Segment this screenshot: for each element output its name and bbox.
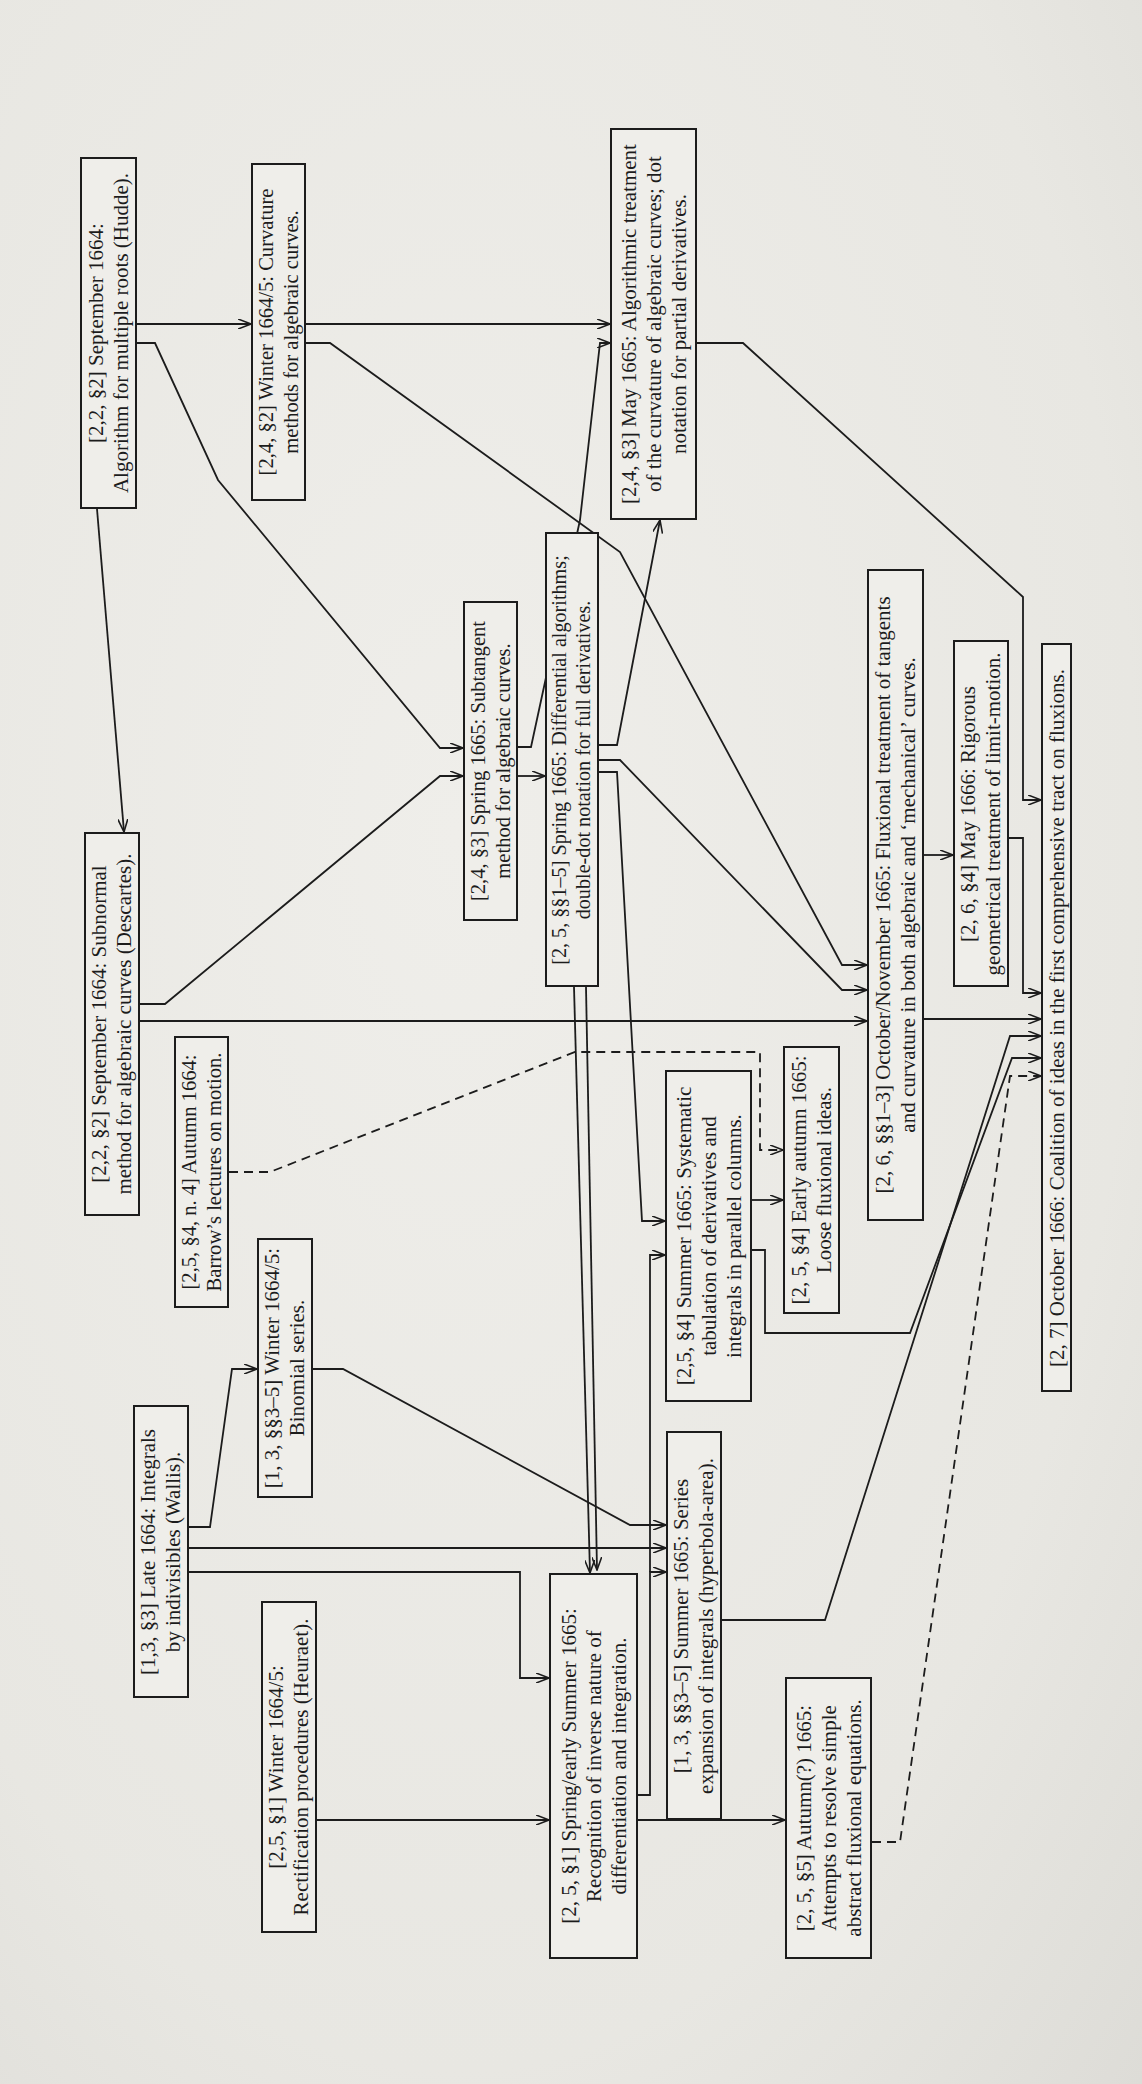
node-text: [2, 7] October 1666: Coalition of ideas …: [1044, 668, 1069, 1366]
node-text-line: tabulation of derivatives and: [696, 1087, 721, 1386]
node-text-line: [1,3, §3] Late 1664: Integrals: [136, 1428, 161, 1674]
node-text-line: differentiation and integration.: [606, 1608, 631, 1924]
edge-inverse-to-series: [638, 1572, 666, 1795]
node-text-line: geometrical treatment of limit-motion.: [981, 652, 1006, 975]
node-text-line: method for algebraic curves.: [491, 621, 516, 901]
node-text-line: [2,5, §4] Summer 1665: Systematic: [671, 1087, 696, 1386]
edge-differential-to-octnov: [599, 760, 867, 990]
node-text: [2,4, §2] Winter 1664/5: Curvaturemethod…: [254, 189, 303, 476]
node-binomial: [1, 3, §§3–5] Winter 1664/5:Binomial ser…: [257, 1238, 313, 1498]
node-may1666: [2, 6, §4] May 1666: Rigorousgeometrical…: [953, 640, 1009, 987]
node-text-line: method for algebraic curves (Descartes).: [112, 853, 137, 1194]
node-text: [2,4, §3] May 1665: Algorithmic treatmen…: [616, 144, 691, 504]
node-text: [1, 3, §§3–5] Summer 1665: Seriesexpansi…: [669, 1458, 719, 1794]
node-text-line: expansion of integrals (hyperbola-area).: [694, 1458, 719, 1794]
node-text-line: of the curvature of algebraic curves; do…: [641, 144, 666, 504]
node-text-line: [2,5, §4, n. 4] Autumn 1664:: [177, 1053, 202, 1292]
node-text: [2, 5, §§1–5] Spring 1665: Differential …: [548, 555, 596, 965]
node-earlyautumn: [2, 5, §4] Early autumn 1665:Loose fluxi…: [783, 1046, 840, 1314]
edge-wallis-to-binomial: [189, 1369, 257, 1527]
node-differential: [2, 5, §§1–5] Spring 1665: Differential …: [545, 532, 599, 987]
node-autumn: [2, 5, §5] Autumn(?) 1665:Attempts to re…: [785, 1677, 872, 1959]
node-text-line: [2,4, §3] May 1665: Algorithmic treatmen…: [616, 144, 641, 504]
edge-wallis-to-inverse: [189, 1572, 549, 1678]
node-text-line: [2, 5, §5] Autumn(?) 1665:: [791, 1699, 816, 1936]
edge-subnormal-to-subtangent: [140, 776, 463, 1004]
node-coalition: [2, 7] October 1666: Coalition of ideas …: [1041, 643, 1072, 1392]
node-text: [2,4, §3] Spring 1665: Subtangentmethod …: [466, 621, 515, 901]
node-text: [1, 3, §§3–5] Winter 1664/5:Binomial ser…: [260, 1248, 310, 1488]
node-text-line: [2, 7] October 1666: Coalition of ideas …: [1044, 668, 1069, 1366]
edge-may1666-to-coalition: [1009, 838, 1041, 993]
node-text-line: [2, 6, §§1–3] October/November 1665: Flu…: [871, 596, 896, 1193]
node-text-line: methods for algebraic curves.: [279, 189, 304, 476]
node-text: [2, 5, §4] Early autumn 1665:Loose fluxi…: [787, 1055, 837, 1304]
node-text-line: by indivisibles (Wallis).: [161, 1428, 186, 1674]
node-text-line: and curvature in both algebraic and ‘mec…: [896, 596, 921, 1193]
node-text: [2, 6, §§1–3] October/November 1665: Flu…: [871, 596, 921, 1193]
node-text: [2, 5, §1] Spring/early Summer 1665:Reco…: [556, 1608, 631, 1924]
edge-hudde-to-subnormal: [97, 509, 124, 832]
node-text: [1,3, §3] Late 1664: Integralsby indivis…: [136, 1428, 186, 1674]
node-text-line: [1, 3, §§3–5] Summer 1665: Series: [669, 1458, 694, 1794]
node-text-line: double-dot notation for full derivatives…: [572, 555, 596, 965]
node-text-line: Recognition of inverse nature of: [581, 1608, 606, 1924]
node-text-line: [2,4, §2] Winter 1664/5: Curvature: [254, 189, 279, 476]
node-text-line: [2, 5, §§1–5] Spring 1665: Differential …: [548, 555, 572, 965]
node-text-line: Algorithm for multiple roots (Hudde).: [109, 173, 134, 493]
node-subnormal: [2,2, §2] September 1664: Subnormalmetho…: [84, 832, 140, 1216]
node-wallis: [1,3, §3] Late 1664: Integralsby indivis…: [133, 1405, 189, 1698]
diagram-page: [2,2, §2] September 1664:Algorithm for m…: [0, 0, 1142, 2084]
node-text: [2,5, §4, n. 4] Autumn 1664:Barrow’s lec…: [177, 1053, 226, 1292]
node-text-line: [2, 5, §4] Early autumn 1665:: [787, 1055, 812, 1304]
node-text: [2,2, §2] September 1664: Subnormalmetho…: [87, 853, 137, 1194]
node-octnov: [2, 6, §§1–3] October/November 1665: Flu…: [867, 569, 924, 1221]
node-heuraet: [2,5, §1] Winter 1664/5:Rectification pr…: [261, 1601, 317, 1933]
node-hudde: [2,2, §2] September 1664:Algorithm for m…: [80, 157, 137, 509]
node-text-line: [2, 5, §1] Spring/early Summer 1665:: [556, 1608, 581, 1924]
node-text: [2,5, §4] Summer 1665: Systematictabulat…: [671, 1087, 746, 1386]
node-text-line: [2,2, §2] September 1664:: [84, 173, 109, 493]
node-text-line: integrals in parallel columns.: [721, 1087, 746, 1386]
node-text-line: Attempts to resolve simple: [816, 1699, 841, 1936]
node-text: [2,2, §2] September 1664:Algorithm for m…: [84, 173, 134, 493]
edge-differential-to-systematic: [599, 772, 665, 1221]
edge-binomial-to-series: [313, 1369, 666, 1525]
node-text-line: [2,4, §3] Spring 1665: Subtangent: [466, 621, 491, 901]
node-curvature: [2,4, §2] Winter 1664/5: Curvaturemethod…: [251, 163, 306, 501]
node-inverse: [2, 5, §1] Spring/early Summer 1665:Reco…: [549, 1573, 638, 1959]
node-subtangent: [2,4, §3] Spring 1665: Subtangentmethod …: [463, 601, 518, 921]
node-text-line: [2, 6, §4] May 1666: Rigorous: [956, 652, 981, 975]
node-text-line: [2,5, §1] Winter 1664/5:: [264, 1619, 289, 1916]
node-text: [2,5, §1] Winter 1664/5:Rectification pr…: [264, 1619, 314, 1916]
node-barrow: [2,5, §4, n. 4] Autumn 1664:Barrow’s lec…: [174, 1036, 229, 1308]
node-text: [2, 6, §4] May 1666: Rigorousgeometrical…: [956, 652, 1006, 975]
node-text-line: Binomial series.: [285, 1248, 310, 1488]
node-text-line: abstract fluxional equations.: [841, 1699, 866, 1936]
node-text-line: notation for partial derivatives.: [666, 144, 691, 504]
node-text-line: [2,2, §2] September 1664: Subnormal: [87, 853, 112, 1194]
node-series: [1, 3, §§3–5] Summer 1665: Seriesexpansi…: [666, 1431, 722, 1820]
node-text-line: Rectification procedures (Heuraet).: [289, 1619, 314, 1916]
node-text-line: Loose fluxional ideas.: [812, 1055, 837, 1304]
edge-differential-to-may1665: [599, 520, 660, 745]
node-may1665: [2,4, §3] May 1665: Algorithmic treatmen…: [610, 128, 697, 520]
node-text: [2, 5, §5] Autumn(?) 1665:Attempts to re…: [791, 1699, 866, 1936]
node-text-line: [1, 3, §§3–5] Winter 1664/5:: [260, 1248, 285, 1488]
node-systematic: [2,5, §4] Summer 1665: Systematictabulat…: [665, 1070, 752, 1402]
node-text-line: Barrow’s lectures on motion.: [202, 1053, 227, 1292]
